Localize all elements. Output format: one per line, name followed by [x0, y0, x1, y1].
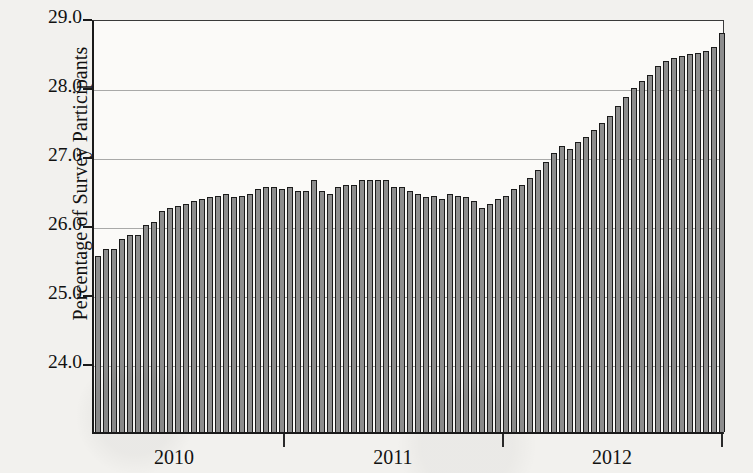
bar [423, 197, 429, 432]
bar [375, 180, 381, 432]
bar [655, 66, 661, 432]
y-axis-tick-label: 27.0 [6, 144, 82, 166]
y-axis-tick-label: 24.0 [6, 351, 82, 373]
bar [679, 56, 685, 432]
bar [223, 194, 229, 432]
y-axis-tick-label: 29.0 [6, 6, 82, 28]
bar [207, 197, 213, 432]
bar [647, 75, 653, 432]
bar [255, 189, 261, 432]
bar [367, 180, 373, 432]
y-axis-tick-label: 26.0 [6, 213, 82, 235]
y-axis-tick [83, 364, 92, 366]
x-axis-tick-label: 2010 [114, 446, 234, 469]
bar [439, 199, 445, 432]
bar [703, 51, 709, 432]
bar [287, 187, 293, 432]
bar [391, 187, 397, 432]
bar [199, 199, 205, 432]
y-axis-tick-label: 25.0 [6, 282, 82, 304]
x-axis-tick-label: 2012 [552, 446, 672, 469]
bar [311, 180, 317, 432]
chart-figure: Percentage of Survey Participants 29.028… [0, 0, 753, 473]
y-axis-tick-label: 28.0 [6, 75, 82, 97]
bar [303, 191, 309, 433]
bar [335, 187, 341, 432]
bar [351, 185, 357, 432]
bar [687, 54, 693, 432]
y-axis-tick [83, 157, 92, 159]
y-axis-tick [83, 226, 92, 228]
bar [511, 189, 517, 432]
bar [343, 185, 349, 432]
bar [135, 235, 141, 432]
bar [103, 249, 109, 432]
bar [551, 153, 557, 432]
bar [583, 137, 589, 432]
x-axis-tick [502, 434, 504, 447]
bar [399, 187, 405, 432]
bar [623, 97, 629, 432]
bar [151, 222, 157, 432]
bar [183, 204, 189, 432]
bar [631, 88, 637, 432]
x-axis-tick [721, 434, 723, 447]
bar [543, 162, 549, 432]
plot-area [92, 20, 724, 434]
bar [503, 196, 509, 432]
bar [559, 146, 565, 432]
bar [519, 185, 525, 432]
bar [159, 211, 165, 432]
x-axis-tick-label: 2011 [333, 446, 453, 469]
bar [111, 249, 117, 432]
bar [263, 187, 269, 432]
bar [719, 33, 725, 432]
bar [607, 116, 613, 432]
y-axis-tick [83, 19, 92, 21]
bar [591, 130, 597, 432]
bar [175, 206, 181, 432]
bar [463, 197, 469, 432]
bar [383, 180, 389, 432]
bar [231, 197, 237, 432]
x-axis-tick [283, 434, 285, 447]
bar [247, 194, 253, 432]
bar [575, 142, 581, 432]
bar [431, 196, 437, 432]
bar [495, 199, 501, 432]
bar [191, 201, 197, 432]
bar [527, 178, 533, 432]
bar [327, 194, 333, 432]
bar-series [94, 21, 723, 432]
y-axis-tick [83, 88, 92, 90]
y-axis-title: Percentage of Survey Participants [69, 9, 92, 359]
bar [95, 256, 101, 432]
bar [415, 194, 421, 432]
bar [535, 170, 541, 432]
bar [663, 61, 669, 432]
bar [455, 196, 461, 432]
bar [599, 123, 605, 432]
bar [119, 239, 125, 432]
bar [671, 58, 677, 432]
bar [295, 191, 301, 433]
bar [407, 191, 413, 433]
bar [215, 196, 221, 432]
bar [471, 201, 477, 432]
bar [359, 180, 365, 432]
bar [639, 81, 645, 432]
bar [271, 187, 277, 432]
bar [143, 225, 149, 432]
bar [711, 47, 717, 432]
bar [615, 106, 621, 432]
bar [479, 208, 485, 432]
bar [239, 196, 245, 432]
bar [447, 194, 453, 432]
y-axis-tick [83, 295, 92, 297]
bar [167, 208, 173, 432]
bar [567, 149, 573, 432]
bar [279, 189, 285, 432]
bar [695, 53, 701, 433]
bar [319, 191, 325, 433]
bar [487, 204, 493, 432]
